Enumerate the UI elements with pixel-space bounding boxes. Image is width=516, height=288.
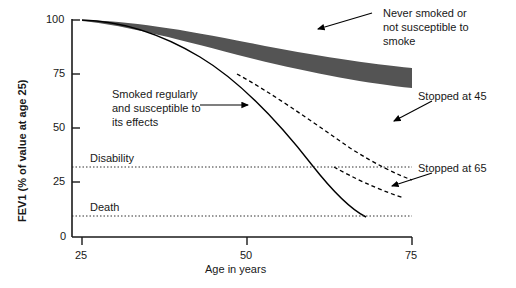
x-axis-title: Age in years <box>205 263 266 275</box>
arrow-never-smoked <box>318 13 372 29</box>
annotation-smoked-regularly-line1: Smoked regularly <box>112 88 198 101</box>
series-never-smoked-band <box>82 20 412 88</box>
y-tick-label-25: 25 <box>53 175 65 187</box>
x-tick-label-75: 75 <box>405 249 417 261</box>
y-tick-label-100: 100 <box>46 13 64 25</box>
y-tick-label-50: 50 <box>53 121 65 133</box>
fev1-decline-chart: FEV1 (% of value at age 25) Age in years… <box>0 0 516 288</box>
annotation-never-smoked-line3: smoke <box>383 35 415 48</box>
series-stopped-at-45 <box>237 74 412 180</box>
x-tick-label-25: 25 <box>75 249 87 261</box>
annotation-never-smoked-line2: not susceptible to <box>383 21 469 34</box>
y-tick-label-75: 75 <box>53 67 65 79</box>
threshold-label-disability: Disability <box>90 152 134 165</box>
y-axis-title: FEV1 (% of value at age 25) <box>16 80 28 222</box>
annotation-smoked-regularly-line3: its effects <box>112 116 158 129</box>
arrow-stopped-at-45 <box>394 101 432 121</box>
annotation-never-smoked-line1: Never smoked or <box>383 7 467 20</box>
annotation-stopped-at-45: Stopped at 45 <box>418 90 487 103</box>
x-tick-label-50: 50 <box>240 249 252 261</box>
y-tick-label-0: 0 <box>60 230 66 242</box>
annotation-stopped-at-65: Stopped at 65 <box>418 162 487 175</box>
chart-canvas <box>0 0 516 288</box>
annotation-smoked-regularly-line2: and susceptible to <box>112 102 201 115</box>
threshold-label-death: Death <box>90 201 119 214</box>
